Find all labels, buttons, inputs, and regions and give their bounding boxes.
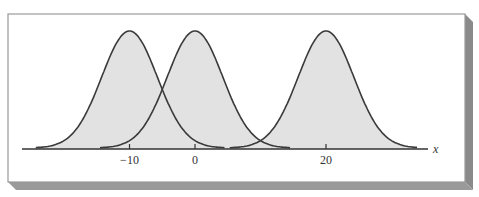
chart-figure: −10020 x (0, 0, 479, 197)
x-tick-label: −10 (120, 153, 139, 167)
x-tick-label: 20 (320, 153, 332, 167)
frame-shadow-bottom (8, 182, 473, 190)
x-tick-label: 0 (192, 153, 198, 167)
x-axis-label: x (432, 142, 439, 156)
chart-frame (8, 14, 465, 182)
frame-shadow-right (465, 14, 473, 190)
